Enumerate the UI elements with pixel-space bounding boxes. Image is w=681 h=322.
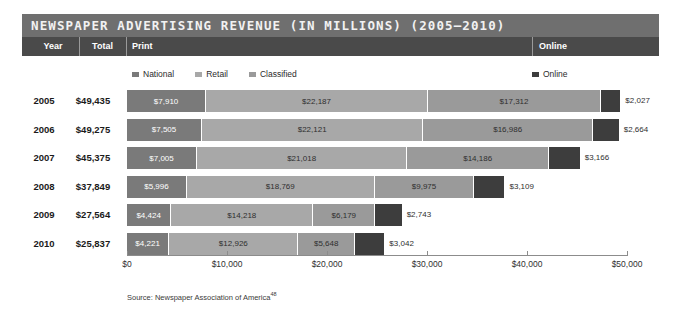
bar-segment-online [355,233,385,255]
bar-value-label-online: $3,042 [389,233,413,255]
column-divider-3 [532,37,533,56]
bar-segment-retail: $22,187 [206,90,428,112]
bar-segment-classified: $9,975 [375,176,475,198]
bar-segment-national: $7,505 [127,119,202,141]
legend-label-national: National [143,69,174,79]
chart-figure: NEWSPAPER ADVERTISING REVENUE (IN MILLIO… [0,0,681,322]
row-year-label: 2005 [22,90,66,112]
column-header-year: Year [31,37,75,56]
legend-swatch-icon-online [532,72,539,77]
legend-item-classified: Classified [249,69,297,79]
legend-swatch-icon-classified [249,72,256,77]
x-axis-tick [427,251,428,256]
bar-segment-online [593,119,620,141]
bar-value-label-online: $3,109 [509,176,533,198]
bar-value-label-online: $2,743 [407,204,431,226]
row-total-label: $49,435 [64,90,122,112]
chart-title-bar: NEWSPAPER ADVERTISING REVENUE (IN MILLIO… [22,14,659,37]
bar-segment-classified: $14,186 [407,147,549,169]
bar-segment-national: $7,005 [127,147,197,169]
source-text: Source: Newspaper Association of America [127,293,270,302]
row-total-label: $27,564 [64,204,122,226]
legend-online: Online [532,68,568,80]
legend-label-classified: Classified [260,69,297,79]
x-axis-tick [527,251,528,256]
bar-segment-national: $5,996 [127,176,187,198]
row-total-label: $45,375 [64,147,122,169]
bar-segment-classified: $6,179 [313,204,375,226]
x-axis-tick-label: $50,000 [612,259,643,269]
bar-segment-retail: $22,121 [202,119,423,141]
row-year-label: 2008 [22,176,66,198]
row-total-label: $25,837 [64,233,122,255]
x-axis-tick [627,251,628,256]
bar-segment-retail: $18,769 [187,176,375,198]
bar-segment-national: $4,221 [127,233,169,255]
x-axis-tick-label: $20,000 [312,259,343,269]
row-year-label: 2006 [22,119,66,141]
x-axis-tick-label: $0 [122,259,131,269]
legend-item-online: Online [532,69,568,79]
legend-print: National Retail Classified [132,68,318,80]
row-total-label: $49,275 [64,119,122,141]
bar-segment-online [601,90,621,112]
x-axis-tick [127,251,128,256]
column-header-bar: Year Total Print Online [22,37,659,56]
bar-segment-classified: $17,312 [428,90,601,112]
legend-label-retail: Retail [206,69,228,79]
bar-value-label-online: $2,664 [624,119,648,141]
column-header-total: Total [80,37,125,56]
bar-segment-online [474,176,505,198]
x-axis-tick-label: $30,000 [412,259,443,269]
legend-label-online: Online [543,69,568,79]
bar-segment-national: $7,910 [127,90,206,112]
x-axis-tick-label: $40,000 [512,259,543,269]
bar-segment-online [549,147,581,169]
row-year-label: 2007 [22,147,66,169]
x-axis-line [127,255,627,256]
column-divider-2 [126,37,127,56]
row-year-label: 2010 [22,233,66,255]
source-reference: 48 [270,291,276,297]
column-header-print: Print [132,37,153,56]
x-axis-tick-label: $10,000 [212,259,243,269]
row-total-label: $37,849 [64,176,122,198]
row-year-label: 2009 [22,204,66,226]
column-header-online: Online [539,37,567,56]
x-axis-tick [327,251,328,256]
bar-value-label-online: $3,166 [585,147,609,169]
bar-segment-retail: $21,018 [197,147,407,169]
legend-item-retail: Retail [195,69,228,79]
legend-swatch-icon-national [132,72,139,77]
bar-segment-retail: $14,218 [171,204,313,226]
bar-segment-online [375,204,402,226]
legend-item-national: National [132,69,174,79]
bar-segment-national: $4,424 [127,204,171,226]
legend-swatch-icon-retail [195,72,202,77]
bar-segment-retail: $12,926 [169,233,298,255]
bar-segment-classified: $16,986 [423,119,593,141]
source-note: Source: Newspaper Association of America… [127,291,277,302]
page-title: NEWSPAPER ADVERTISING REVENUE (IN MILLIO… [22,18,505,33]
x-axis-tick [227,251,228,256]
bar-value-label-online: $2,027 [625,90,649,112]
